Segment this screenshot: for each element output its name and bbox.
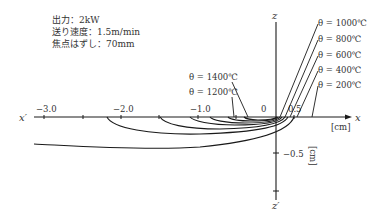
label-400: θ = 400℃ — [318, 65, 361, 75]
label-800: θ = 800℃ — [318, 34, 361, 44]
x-unit-label: [cm] — [331, 122, 350, 132]
z-axis-label: z — [271, 10, 278, 21]
x-neg-axis-label: x′ — [19, 112, 28, 123]
label-1000: θ = 1000℃ — [318, 18, 367, 28]
z-neg-axis-label: z′ — [271, 200, 280, 211]
label-1400: θ = 1400℃ — [189, 72, 238, 82]
isotherm-curves — [34, 117, 294, 148]
x-axis-arrow-icon — [345, 115, 352, 120]
isotherm-200 — [34, 117, 294, 148]
x-tick-neg2: −2.0 — [113, 104, 134, 114]
label-1200: θ = 1200℃ — [189, 87, 238, 97]
label-600: θ = 600℃ — [318, 50, 361, 60]
isotherm-diagram: −3.0 −2.0 −1.0 0 0.5 x x′ [cm] z z′ −0.5… — [0, 0, 382, 218]
x-axis-label: x — [355, 112, 361, 123]
x-tick-neg3: −3.0 — [36, 104, 57, 114]
x-tick-zero: 0 — [261, 104, 266, 114]
isotherm-labels: θ = 1400℃ θ = 1200℃ θ = 1000℃ θ = 800℃ θ… — [189, 18, 367, 117]
x-tick-neg1: −1.0 — [190, 104, 211, 114]
z-tick-neg0.5: −0.5 — [283, 149, 304, 159]
label-200: θ = 200℃ — [318, 80, 361, 90]
z-unit-label: [cm] — [308, 146, 318, 165]
